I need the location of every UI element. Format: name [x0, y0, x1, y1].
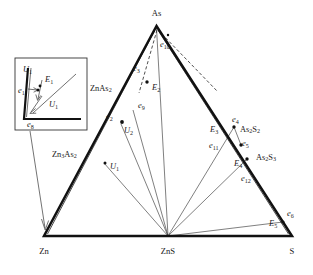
marker-U1	[104, 162, 107, 165]
marker-E3	[232, 125, 235, 128]
point-label-zns: ZnS	[161, 246, 176, 256]
point-label-e3: e3	[133, 64, 140, 74]
point-label-E2: E2	[151, 83, 160, 93]
tieline-zns-e5	[168, 222, 283, 236]
inset-pointer	[30, 131, 49, 230]
inset-pointer-line	[30, 131, 45, 228]
point-label-U1: U1	[110, 162, 119, 172]
ternary-phase-diagram: As Zn S ZnS ZnAs2 Zn3As2 As2S2 As2S3 e10…	[0, 0, 313, 275]
point-label-e5: e5	[242, 139, 249, 149]
phase-label-as2s3: As2S3	[256, 153, 276, 163]
point-label-e9: e9	[138, 101, 145, 111]
triangle-edge-right-inner	[159, 31, 289, 234]
point-label-E4: E4	[233, 159, 242, 169]
marker-U2	[120, 120, 124, 124]
point-label-e11: e11	[209, 141, 219, 151]
tieline-zns-e9	[133, 110, 168, 236]
marker-E4	[245, 157, 248, 160]
point-label-e4: e4	[232, 115, 239, 125]
tieline-zns-as	[157, 28, 169, 236]
point-label-U2: U2	[124, 126, 133, 136]
vertex-label-s: S	[290, 246, 295, 256]
phase-label-znas2: ZnAs2	[90, 84, 112, 94]
point-label-e12: e12	[241, 174, 251, 184]
point-label-E3: E3	[209, 125, 218, 135]
marker-e10	[167, 34, 169, 36]
dash-right-as	[158, 30, 218, 92]
point-label-E5: E5	[268, 219, 277, 229]
vertex-label-zn: Zn	[39, 246, 49, 256]
tieline-zns-u1	[104, 163, 168, 236]
inset-marker-e1	[37, 89, 40, 92]
zn-corner-inset: U1 E1 e1 U1 e8	[15, 58, 87, 130]
marker-E5	[281, 220, 284, 223]
inset-marker-E1	[39, 85, 42, 88]
point-label-e6: e6	[287, 209, 294, 219]
tieline-zns-u2	[121, 124, 168, 236]
phase-label-zn3as2: Zn3As2	[52, 150, 77, 160]
marker-E2	[145, 80, 148, 83]
phase-label-as2s2: As2S2	[240, 125, 260, 135]
point-label-e2: e2	[106, 112, 113, 122]
vertex-label-as: As	[152, 8, 162, 18]
